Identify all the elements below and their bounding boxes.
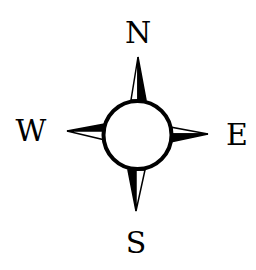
south-point [128, 170, 145, 211]
north-label: N [125, 18, 151, 48]
center-ring [104, 101, 172, 169]
west-label: W [16, 116, 47, 146]
north-point [131, 57, 146, 100]
east-point [170, 127, 208, 142]
compass-rose-diagram: N E S W [0, 0, 256, 270]
south-label: S [126, 228, 147, 258]
west-point [67, 124, 105, 140]
east-label: E [226, 120, 248, 150]
